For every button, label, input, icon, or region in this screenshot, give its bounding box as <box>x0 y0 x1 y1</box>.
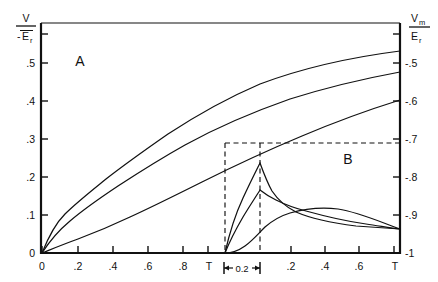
left-axis-denominator-base: E <box>22 30 29 42</box>
left-tick-0: 0 <box>29 247 35 259</box>
left-axis-label: V - E r <box>16 12 36 45</box>
chart-svg: 0 .1 .2 .3 .4 .5 V - E r -1 -.9 -.8 -.7 … <box>0 0 438 282</box>
bottom-axis-tick-labels-right: .2 .4 .6 T <box>287 260 399 272</box>
plot-frame <box>41 23 400 253</box>
bottom-left-tick-2: .4 <box>109 260 118 272</box>
panel-b-curves <box>225 163 400 253</box>
bottom-right-tick-3: T <box>392 260 399 272</box>
right-tick-1: -.9 <box>405 209 417 221</box>
right-axis-label: V m E r <box>409 12 430 45</box>
bottom-left-tick-0: 0 <box>39 260 45 272</box>
left-axis-tick-labels: 0 .1 .2 .3 .4 .5 <box>26 57 35 259</box>
left-tick-1: .1 <box>26 209 35 221</box>
bottom-left-tick-5: T <box>206 260 213 272</box>
left-axis-numerator: V <box>22 12 29 24</box>
right-tick-5: -.5 <box>405 57 417 69</box>
right-tick-3: -.7 <box>405 133 417 145</box>
panel-b-reference-box <box>225 143 400 253</box>
left-tick-5: .5 <box>26 57 35 69</box>
curve-b-upper <box>225 163 400 253</box>
right-tick-4: -.6 <box>405 95 417 107</box>
curve-b-middle <box>225 190 400 253</box>
left-axis-denominator-prefix: - <box>17 30 21 42</box>
bottom-left-tick-4: .8 <box>179 260 188 272</box>
right-axis-numerator-base: V <box>411 12 418 24</box>
right-axis-denominator-base: E <box>411 30 418 42</box>
right-axis-tick-labels: -1 -.9 -.8 -.7 -.6 -.5 <box>405 57 417 259</box>
right-axis-numerator-sub: m <box>419 18 425 27</box>
right-tick-2: -.8 <box>405 171 417 183</box>
curve-a-lower <box>42 100 400 253</box>
left-tick-3: .3 <box>26 133 35 145</box>
segment-marker: 0.2 <box>224 262 260 274</box>
right-tick-0: -1 <box>405 247 414 259</box>
panel-label-b: B <box>343 151 352 167</box>
figure-container: 0 .1 .2 .3 .4 .5 V - E r -1 -.9 -.8 -.7 … <box>0 0 438 282</box>
right-axis-denominator-sub: r <box>419 36 422 45</box>
bottom-right-tick-2: .6 <box>355 260 364 272</box>
bottom-right-tick-1: .4 <box>321 260 330 272</box>
left-axis-denominator-sub: r <box>30 36 33 45</box>
bottom-left-tick-1: .2 <box>74 260 83 272</box>
bottom-axis-tick-labels-left: 0 .2 .4 .6 .8 T <box>39 260 213 272</box>
bottom-right-tick-0: .2 <box>287 260 296 272</box>
segment-marker-label: 0.2 <box>235 263 248 274</box>
panel-label-a: A <box>75 53 85 69</box>
left-tick-4: .4 <box>26 95 35 107</box>
bottom-left-tick-3: .6 <box>144 260 153 272</box>
curve-b-lower <box>225 208 400 253</box>
left-tick-2: .2 <box>26 171 35 183</box>
